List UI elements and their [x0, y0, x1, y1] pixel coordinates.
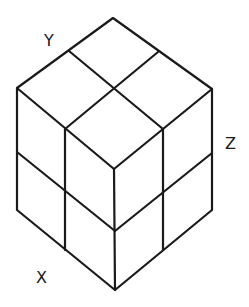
- cube-diagram: Y Z X: [0, 0, 249, 307]
- axis-label-y: Y: [43, 31, 54, 50]
- left-face: [17, 129, 115, 250]
- axis-label-x: X: [36, 268, 47, 287]
- axis-label-z: Z: [225, 134, 236, 153]
- right-face: [115, 129, 212, 250]
